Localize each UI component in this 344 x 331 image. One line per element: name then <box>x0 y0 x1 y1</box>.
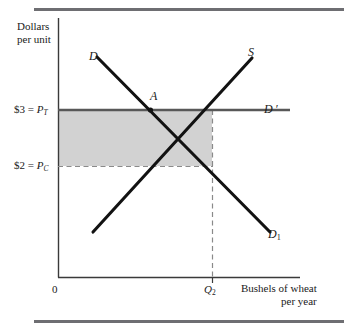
price-label-pt-value: $3 = <box>14 103 37 115</box>
supply-demand-figure: Dollars per unit $3 = PT $2 = PC 0 Q2 Bu… <box>0 0 344 331</box>
y-axis-title-line2: per unit <box>17 33 51 46</box>
x-axis-title-line2: per year <box>241 295 317 308</box>
x-axis-title: Bushels of wheat per year <box>241 282 317 307</box>
y-axis-title: Dollars per unit <box>17 20 51 45</box>
q2-tick-subscript: 2 <box>212 288 216 297</box>
x-axis-title-line1: Bushels of wheat <box>241 282 317 295</box>
price-label-pc-value: $2 = <box>14 159 37 171</box>
supply-curve-label: S <box>248 46 254 60</box>
price-label-pt: $3 = PT <box>14 103 48 117</box>
price-label-pc-subscript: C <box>43 164 48 173</box>
price-label-pc: $2 = PC <box>14 159 48 173</box>
point-a-label: A <box>150 90 157 104</box>
q2-tick-label: Q2 <box>204 283 216 297</box>
point-a-marker <box>148 107 153 112</box>
demand-curve-label-bottom: D1 <box>268 228 281 242</box>
origin-label: 0 <box>52 283 58 296</box>
q2-tick-symbol: Q <box>204 283 212 295</box>
price-label-pt-subscript: T <box>43 108 47 117</box>
y-axis-title-line1: Dollars <box>17 20 51 33</box>
demand-curve-label-top: D <box>89 50 98 64</box>
world-price-line-label: D ′ <box>264 103 278 117</box>
demand-bottom-symbol: D <box>268 227 277 241</box>
demand-bottom-subscript: 1 <box>277 233 281 242</box>
shaded-region-rect <box>58 110 212 166</box>
